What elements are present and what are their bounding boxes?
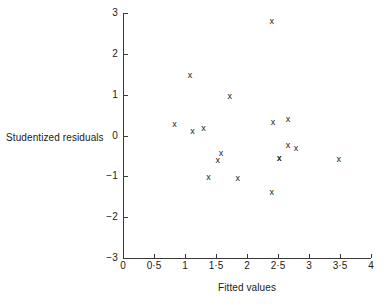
data-point: x	[204, 173, 213, 182]
scatter-plot: 3210−1−2−3 00·511·522·533·54 Studentized…	[0, 0, 391, 304]
y-tick-label: 1	[112, 90, 118, 100]
y-tick-label: 0	[112, 131, 118, 141]
data-point: x	[267, 17, 276, 26]
data-point: x	[283, 115, 292, 124]
y-tick-mark	[124, 217, 128, 218]
x-tick-mark	[278, 254, 279, 258]
x-tick-mark	[340, 254, 341, 258]
x-tick-mark	[247, 254, 248, 258]
data-point: x	[188, 127, 197, 136]
data-point: x	[170, 120, 179, 129]
data-point: x	[291, 144, 300, 153]
data-point: x	[267, 188, 276, 197]
y-axis-title: Studentized residuals	[6, 132, 104, 143]
y-tick-mark	[124, 13, 128, 14]
data-point: x	[275, 154, 284, 163]
x-axis-line	[123, 258, 371, 259]
y-tick-label: 3	[112, 8, 118, 18]
y-tick-label: −2	[106, 212, 118, 222]
x-axis-title: Fitted values	[123, 282, 371, 293]
x-tick-mark	[371, 254, 372, 258]
data-point: x	[199, 124, 208, 133]
y-tick-mark	[124, 54, 128, 55]
x-tick-label: 4	[351, 261, 391, 271]
y-tick-mark	[124, 95, 128, 96]
data-point: x	[225, 92, 234, 101]
x-tick-mark	[185, 254, 186, 258]
y-tick-mark	[124, 176, 128, 177]
data-point: x	[233, 174, 242, 183]
y-tick-label: −1	[106, 171, 118, 181]
data-point: x	[185, 71, 194, 80]
x-tick-mark	[216, 254, 217, 258]
x-tick-mark	[154, 254, 155, 258]
y-tick-label: 2	[112, 49, 118, 59]
y-tick-mark	[124, 136, 128, 137]
data-point: x	[334, 155, 343, 164]
x-tick-mark	[309, 254, 310, 258]
y-tick-mark	[124, 258, 128, 259]
data-point: x	[269, 118, 278, 127]
data-point: x	[216, 149, 225, 158]
